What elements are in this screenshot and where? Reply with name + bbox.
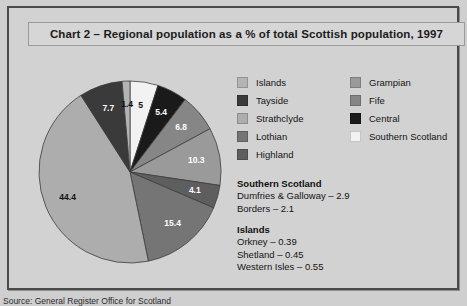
note-heading: Islands bbox=[237, 224, 467, 235]
note-block-southern-scotland: Southern ScotlandDumfries & Galloway – 2… bbox=[237, 178, 467, 215]
legend-item-strathclyde[interactable]: Strathclyde bbox=[237, 110, 304, 127]
legend-column-left: IslandsTaysideStrathclydeLothianHighland bbox=[237, 74, 304, 164]
note-line: Shetland – 0.45 bbox=[237, 249, 467, 262]
legend-item-label: Lothian bbox=[256, 131, 287, 142]
note-line: Western Isles – 0.55 bbox=[237, 261, 467, 274]
pie-slice-label-strathclyde: 44.4 bbox=[59, 192, 76, 202]
legend-item-label: Fife bbox=[369, 95, 385, 106]
note-line: Orkney – 0.39 bbox=[237, 236, 467, 249]
legend-swatch-highland bbox=[237, 149, 248, 160]
legend-item-fife[interactable]: Fife bbox=[350, 92, 447, 109]
legend-swatch-tayside bbox=[237, 95, 248, 106]
note-heading: Southern Scotland bbox=[237, 178, 467, 189]
legend-item-highland[interactable]: Highland bbox=[237, 146, 304, 163]
legend-swatch-southern-scotland bbox=[350, 131, 361, 142]
legend-item-label: Grampian bbox=[369, 77, 411, 88]
pie-chart: 55.46.810.34.115.444.47.71.4 bbox=[36, 78, 224, 266]
legend-item-label: Islands bbox=[256, 77, 286, 88]
note-line: Dumfries & Galloway – 2.9 bbox=[237, 190, 467, 203]
legend-swatch-central bbox=[350, 113, 361, 124]
legend-item-southern-scotland[interactable]: Southern Scotland bbox=[350, 128, 447, 145]
legend-column-right: GrampianFifeCentralSouthern Scotland bbox=[350, 74, 447, 146]
legend-item-central[interactable]: Central bbox=[350, 110, 447, 127]
legend-item-label: Southern Scotland bbox=[369, 131, 447, 142]
pie-slice-label-central: 5.4 bbox=[155, 107, 167, 117]
legend-item-label: Highland bbox=[256, 149, 294, 160]
pie-slice-label-tayside: 7.7 bbox=[102, 103, 114, 113]
legend-item-tayside[interactable]: Tayside bbox=[237, 92, 304, 109]
pie-slice-label-grampian: 10.3 bbox=[188, 155, 205, 165]
pie-slice-label-highland: 4.1 bbox=[189, 185, 201, 195]
legend-item-grampian[interactable]: Grampian bbox=[350, 74, 447, 91]
note-line: Borders – 2.1 bbox=[237, 203, 467, 216]
page-title: Chart 2 – Regional population as a % of … bbox=[50, 28, 443, 40]
pie-chart-svg: 55.46.810.34.115.444.47.71.4 bbox=[36, 78, 224, 266]
legend-swatch-lothian bbox=[237, 131, 248, 142]
note-block-islands: IslandsOrkney – 0.39Shetland – 0.45Weste… bbox=[237, 224, 467, 274]
source-caption: Source: General Register Office for Scot… bbox=[3, 296, 171, 306]
legend-swatch-strathclyde bbox=[237, 113, 248, 124]
pie-slice-label-fife: 6.8 bbox=[175, 122, 187, 132]
legend-item-label: Tayside bbox=[256, 95, 288, 106]
pie-slice-label-southern-scotland: 5 bbox=[138, 100, 143, 110]
pie-slice-label-islands: 1.4 bbox=[121, 99, 133, 109]
pie-slice-label-lothian: 15.4 bbox=[164, 218, 181, 228]
chart-notes: Southern ScotlandDumfries & Galloway – 2… bbox=[237, 178, 467, 283]
legend-item-islands[interactable]: Islands bbox=[237, 74, 304, 91]
legend-swatch-fife bbox=[350, 95, 361, 106]
legend-item-label: Central bbox=[369, 113, 400, 124]
chart-frame: Chart 2 – Regional population as a % of … bbox=[7, 6, 459, 290]
legend-item-label: Strathclyde bbox=[256, 113, 304, 124]
legend-item-lothian[interactable]: Lothian bbox=[237, 128, 304, 145]
legend-swatch-islands bbox=[237, 77, 248, 88]
legend-swatch-grampian bbox=[350, 77, 361, 88]
chart-title-box: Chart 2 – Regional population as a % of … bbox=[28, 22, 465, 46]
chart-page: Chart 2 – Regional population as a % of … bbox=[0, 0, 467, 306]
